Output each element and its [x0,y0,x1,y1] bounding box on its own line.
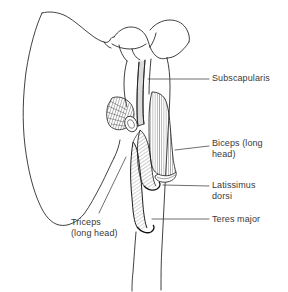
label-teres-major: Teres major [212,214,260,225]
label-subscapularis: Subscapularis [212,73,270,84]
anatomy-figure: Subscapularis Biceps (long head) Latissi… [0,0,288,292]
label-latissimus-dorsi: Latissimus dorsi [212,180,256,202]
label-biceps-long-head: Biceps (long head) [212,138,263,160]
label-triceps-long-head: Triceps (long head) [71,217,118,239]
